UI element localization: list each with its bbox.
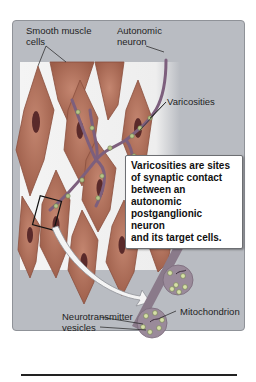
label-smooth-muscle-cells: Smooth muscle cells [26, 25, 91, 47]
bottom-rule [21, 374, 237, 376]
label-mitochondrion: Mitochondrion [180, 306, 240, 317]
label-varicosities: Varicosities [167, 96, 215, 107]
varicosities-callout: Varicosities are sites of synaptic conta… [125, 155, 243, 249]
label-autonomic-neuron: Autonomic neuron [117, 25, 162, 47]
label-neurotransmitter-vesicles: Neurotransmitter vesicles [62, 311, 133, 333]
